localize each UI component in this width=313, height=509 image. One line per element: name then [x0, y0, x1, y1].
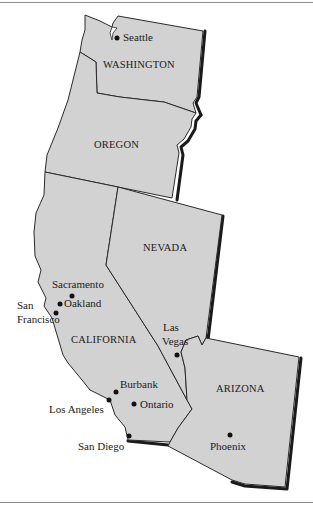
oregon-label: OREGON	[94, 139, 139, 150]
phoenix-marker	[228, 433, 233, 438]
san-francisco-label-line2: Francisco	[17, 313, 60, 325]
ontario-marker	[132, 402, 137, 407]
burbank-marker	[114, 390, 119, 395]
western-us-map	[0, 0, 313, 509]
san-diego-marker	[127, 434, 132, 439]
washington-label: WASHINGTON	[103, 59, 175, 70]
san-diego-label: San Diego	[78, 440, 124, 452]
seattle-label: Seattle	[123, 31, 153, 43]
los-angeles-marker	[107, 398, 112, 403]
ontario-label: Ontario	[140, 398, 174, 410]
los-angeles-label: Los Angeles	[49, 403, 104, 415]
arizona-label: ARIZONA	[216, 383, 265, 394]
california-label: CALIFORNIA	[71, 334, 137, 345]
oakland-label: Oakland	[64, 297, 101, 309]
oakland-marker	[58, 302, 63, 307]
san-francisco-label-line1: San	[17, 299, 34, 311]
seattle-marker	[115, 36, 120, 41]
las-vegas-label-line1: Las	[163, 321, 179, 333]
las-vegas-marker	[175, 353, 180, 358]
phoenix-label: Phoenix	[210, 440, 246, 452]
nevada-label: NEVADA	[143, 242, 187, 253]
burbank-label: Burbank	[120, 378, 158, 390]
sacramento-label: Sacramento	[52, 278, 104, 290]
las-vegas-label-line2: Vegas	[162, 335, 188, 347]
